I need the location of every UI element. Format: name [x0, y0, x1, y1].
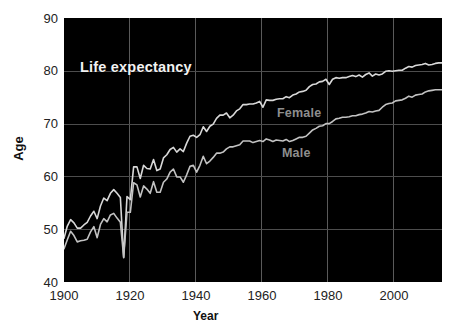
x-tick-1940: 1940	[166, 289, 226, 302]
line-male	[64, 90, 442, 257]
x-tick-1920: 1920	[100, 289, 160, 302]
x-axis-title: Year	[193, 310, 218, 322]
x-tick-2000: 2000	[364, 289, 424, 302]
y-tick-80: 80	[18, 64, 58, 77]
series-label-male: Male	[282, 146, 311, 160]
x-tick-1960: 1960	[232, 289, 292, 302]
plot-area: Life expectancy Female Male	[64, 18, 442, 282]
series-lines	[64, 18, 442, 282]
y-tick-90: 90	[18, 12, 58, 25]
y-tick-60: 60	[18, 170, 58, 183]
x-tick-1980: 1980	[298, 289, 358, 302]
chart-title: Life expectancy	[80, 59, 192, 75]
x-tick-1900: 1900	[34, 289, 94, 302]
y-tick-70: 70	[18, 117, 58, 130]
y-tick-50: 50	[18, 223, 58, 236]
series-label-female: Female	[277, 106, 321, 120]
life-expectancy-figure: Age 90 80 70 60 50 40 1900 1920 1940 196…	[0, 0, 460, 335]
